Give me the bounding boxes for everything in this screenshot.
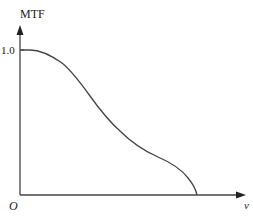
x-axis-label: v: [244, 199, 249, 211]
origin-label: O: [9, 199, 18, 213]
y-axis-arrow-icon: [17, 25, 24, 35]
mtf-chart: MTF 1.0 O v: [0, 0, 253, 221]
y-tick-label: 1.0: [1, 44, 15, 56]
y-axis-label: MTF: [20, 7, 45, 21]
mtf-curve: [20, 50, 197, 195]
x-axis-arrow-icon: [236, 192, 246, 199]
